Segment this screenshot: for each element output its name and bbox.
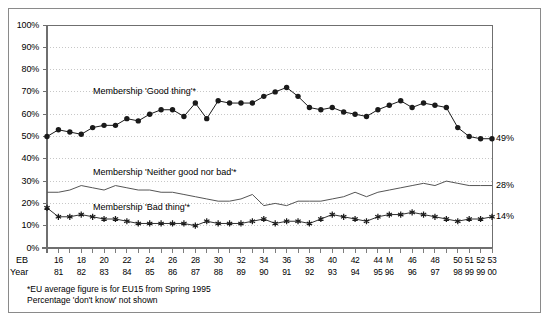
x-tick-eb-48: 48 <box>424 256 446 265</box>
end-value-bad-thing: 14% <box>496 212 514 221</box>
x-tick-eb-32: 32 <box>230 256 252 265</box>
x-axis-row-tag-eb: EB <box>16 256 28 265</box>
annotation-neither-good-nor-bad: Membership 'Neither good nor bad'* <box>93 167 237 177</box>
x-tick-year-19: 90 <box>253 268 275 277</box>
x-tick-eb-42: 42 <box>344 256 366 265</box>
x-tick-eb-20: 20 <box>93 256 115 265</box>
y-axis-tick-label-20: 20% <box>3 199 39 208</box>
x-tick-eb-28: 28 <box>184 256 206 265</box>
x-tick-year-5: 83 <box>93 268 115 277</box>
x-tick-eb-38: 38 <box>298 256 320 265</box>
x-tick-eb-18: 18 <box>70 256 92 265</box>
x-tick-eb-34: 34 <box>253 256 275 265</box>
x-tick-eb-22: 22 <box>116 256 138 265</box>
y-axis-tick-label-10: 10% <box>3 221 39 230</box>
x-tick-eb-16: 16 <box>47 256 69 265</box>
x-tick-year-30: 96 <box>378 268 400 277</box>
y-axis-tick-label-50: 50% <box>3 132 39 141</box>
x-tick-year-34: 97 <box>424 268 446 277</box>
x-tick-year-15: 88 <box>207 268 229 277</box>
x-tick-year-27: 94 <box>344 268 366 277</box>
x-tick-year-25: 93 <box>321 268 343 277</box>
annotation-bad-thing: Membership 'Bad thing'* <box>93 202 190 212</box>
x-tick-year-32: 96 <box>401 268 423 277</box>
end-value-good-thing: 49% <box>496 134 514 143</box>
x-tick-year-21: 91 <box>276 268 298 277</box>
y-axis-tick-label-0: 0% <box>3 244 39 253</box>
end-value-neither: 28% <box>496 181 514 190</box>
y-axis-tick-label-90: 90% <box>3 43 39 52</box>
footnote-line-1: *EU average figure is for EU15 from Spri… <box>27 284 211 295</box>
x-tick-eb-40: 40 <box>321 256 343 265</box>
x-axis-row-tag-year: Year <box>10 268 28 277</box>
y-axis-tick-label-30: 30% <box>3 177 39 186</box>
x-tick-year-39: 00 <box>481 268 503 277</box>
x-tick-year-13: 87 <box>184 268 206 277</box>
annotation-good-thing: Membership 'Good thing'* <box>93 86 196 96</box>
x-tick-eb-24: 24 <box>139 256 161 265</box>
x-tick-eb-30: 30 <box>207 256 229 265</box>
y-axis-tick-label-60: 60% <box>3 110 39 119</box>
x-tick-eb-26: 26 <box>162 256 184 265</box>
y-axis-tick-label-80: 80% <box>3 65 39 74</box>
y-axis-tick-label-40: 40% <box>3 154 39 163</box>
x-tick-year-1: 81 <box>47 268 69 277</box>
x-tick-year-7: 84 <box>116 268 138 277</box>
x-tick-year-11: 86 <box>162 268 184 277</box>
x-tick-eb-36: 36 <box>276 256 298 265</box>
x-tick-year-17: 89 <box>230 268 252 277</box>
y-axis-tick-label-100: 100% <box>3 21 39 30</box>
x-tick-year-3: 82 <box>70 268 92 277</box>
x-tick-eb-46: 46 <box>401 256 423 265</box>
y-axis-tick-label-70: 70% <box>3 87 39 96</box>
x-tick-year-9: 85 <box>139 268 161 277</box>
footnote-line-2: Percentage 'don't know' not shown <box>27 295 158 306</box>
x-tick-eb-53: 53 <box>481 256 503 265</box>
x-tick-year-23: 92 <box>298 268 320 277</box>
chart-screenshot: 0%10%20%30%40%50%60%70%80%90%100%EBYear1… <box>0 0 549 321</box>
x-tick-eb-M: M <box>378 256 400 265</box>
